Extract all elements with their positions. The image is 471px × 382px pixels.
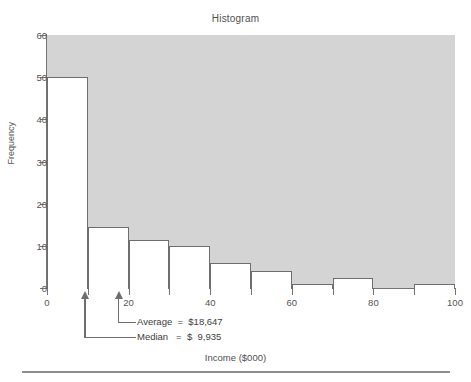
histogram-bar xyxy=(251,271,292,289)
histogram-bar xyxy=(210,263,251,289)
x-tick-label: 40 xyxy=(190,297,230,308)
x-tick-90 xyxy=(414,289,415,295)
x-tick-60 xyxy=(292,289,293,295)
median-leader-line xyxy=(84,337,136,338)
median-arrow-stem xyxy=(84,298,85,337)
x-tick-30 xyxy=(169,289,170,295)
histogram-bar xyxy=(292,284,333,289)
histogram-bar xyxy=(47,77,88,289)
y-tick-label: 30 xyxy=(21,156,47,167)
x-tick-20 xyxy=(129,289,130,295)
histogram-bar xyxy=(333,278,374,290)
x-tick-label: 60 xyxy=(272,297,312,308)
x-tick-label: 80 xyxy=(353,297,393,308)
histogram-bar xyxy=(414,284,455,289)
x-tick-label: 100 xyxy=(435,297,471,308)
x-tick-50 xyxy=(251,289,252,295)
chart-title: Histogram xyxy=(0,13,471,24)
histogram-bar xyxy=(129,240,170,290)
x-axis-title: Income ($000) xyxy=(0,352,471,363)
average-leader-line xyxy=(118,322,137,323)
median-annotation-label: Median = $ 9,935 xyxy=(137,331,221,342)
average-annotation-label: Average = $18,647 xyxy=(137,316,223,327)
footer-divider xyxy=(22,371,450,373)
y-tick-label: 60 xyxy=(21,30,47,41)
x-tick-100 xyxy=(455,289,456,295)
y-tick-label: 40 xyxy=(21,114,47,125)
y-axis-title: Frequency xyxy=(6,79,16,122)
x-tick-label: 0 xyxy=(27,297,67,308)
x-tick-80 xyxy=(373,289,374,295)
x-tick-70 xyxy=(333,289,334,295)
x-tick-40 xyxy=(210,289,211,295)
x-tick-0 xyxy=(47,289,48,295)
histogram-bar xyxy=(169,246,210,289)
y-tick-label: 20 xyxy=(21,198,47,209)
y-axis-title-text: Frequency xyxy=(6,122,16,165)
y-tick-label: 50 xyxy=(21,72,47,83)
y-tick-label: 10 xyxy=(21,240,47,251)
average-arrow-stem xyxy=(118,298,119,322)
histogram-bar xyxy=(88,227,129,289)
y-tick-label: 0 xyxy=(21,283,47,294)
histogram-figure: Histogram 0 10 20 30 40 50 60 0 20 40 60… xyxy=(0,0,471,382)
